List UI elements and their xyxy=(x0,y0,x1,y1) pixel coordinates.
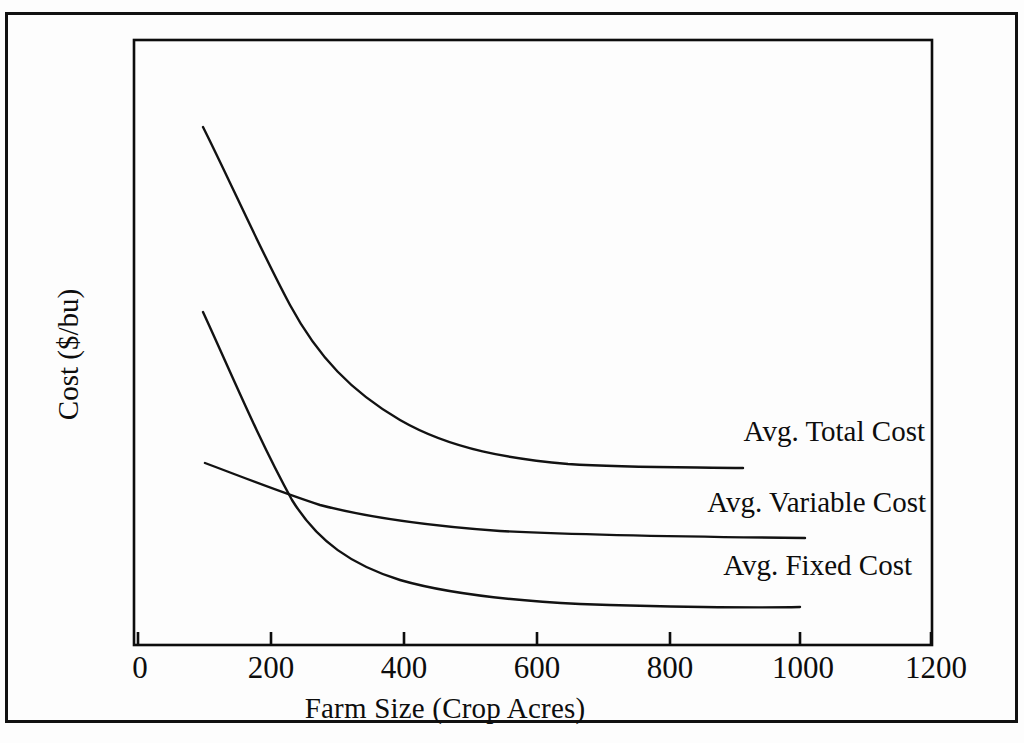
x-tick-label-0: 0 xyxy=(95,650,185,686)
series-label-avg-variable-cost: Avg. Variable Cost xyxy=(530,486,926,519)
figure-page: 0 200 400 600 800 1000 1200 Farm Size (C… xyxy=(0,0,1024,743)
series-label-avg-fixed-cost: Avg. Fixed Cost xyxy=(530,549,912,582)
x-tick-label-600: 600 xyxy=(492,650,582,686)
x-axis-ticks xyxy=(138,632,931,645)
x-axis-title: Farm Size (Crop Acres) xyxy=(0,692,890,725)
series-label-avg-total-cost: Avg. Total Cost xyxy=(530,415,925,448)
x-tick-label-200: 200 xyxy=(226,650,316,686)
x-tick-label-1000: 1000 xyxy=(758,650,848,686)
y-axis-title: Cost ($/bu) xyxy=(52,225,85,485)
x-tick-label-400: 400 xyxy=(359,650,449,686)
x-tick-label-1200: 1200 xyxy=(891,650,981,686)
chart-canvas xyxy=(0,0,1024,743)
x-tick-label-800: 800 xyxy=(625,650,715,686)
cost-curve-chart: 0 200 400 600 800 1000 1200 Farm Size (C… xyxy=(0,0,1024,743)
